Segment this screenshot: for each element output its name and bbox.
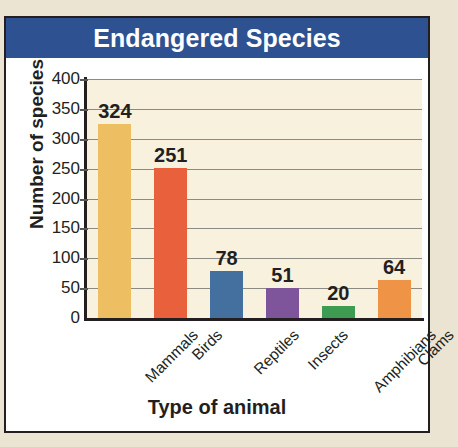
page-title: Endangered Species [93, 24, 341, 53]
x-axis-line [84, 318, 424, 321]
bar-amphibians[interactable] [322, 306, 355, 318]
y-axis-tick [80, 288, 88, 290]
y-axis-tick [80, 139, 88, 141]
bar-clams[interactable] [378, 280, 411, 318]
bar-birds[interactable] [154, 168, 187, 318]
x-axis-title: Type of animal [6, 396, 428, 419]
bar-value-label: 324 [87, 100, 142, 123]
y-axis-tick [80, 169, 88, 171]
chart-card: Endangered Species Number of species 400… [4, 16, 430, 433]
y-axis-tick [80, 258, 88, 260]
gridline [87, 228, 422, 229]
y-axis-tick-label: 0 [34, 308, 80, 328]
y-axis-tick-label: 100 [34, 248, 80, 268]
gridline [87, 79, 422, 80]
y-axis-tick-label: 150 [34, 218, 80, 238]
x-axis-category-label: Insects [304, 326, 351, 373]
bar-value-label: 251 [143, 144, 198, 167]
y-axis-tick [80, 109, 88, 111]
y-axis-tick-label: 300 [34, 129, 80, 149]
y-axis-tick-label: 200 [34, 189, 80, 209]
y-axis-tick [80, 79, 88, 81]
y-axis-tick-label: 400 [34, 69, 80, 89]
bar-value-label: 20 [311, 282, 366, 305]
bar-mammals[interactable] [98, 124, 131, 318]
y-axis-tick [80, 228, 88, 230]
bar-reptiles[interactable] [210, 271, 243, 318]
y-axis-tick-label: 50 [34, 278, 80, 298]
y-axis-tick [80, 199, 88, 201]
bar-insects[interactable] [266, 288, 299, 318]
x-axis-category-label: Reptiles [250, 326, 302, 378]
bar-value-label: 51 [255, 264, 310, 287]
gridline [87, 169, 422, 170]
gridline [87, 199, 422, 200]
gridline [87, 139, 422, 140]
bar-value-label: 64 [367, 256, 422, 279]
bar-value-label: 78 [199, 247, 254, 270]
gridline [87, 288, 422, 289]
y-axis-tick-labels: 400350300250200150100500 [30, 18, 80, 435]
plot-area: 32425178512064 [87, 79, 422, 318]
y-axis-tick-label: 250 [34, 159, 80, 179]
y-axis-tick-label: 350 [34, 99, 80, 119]
